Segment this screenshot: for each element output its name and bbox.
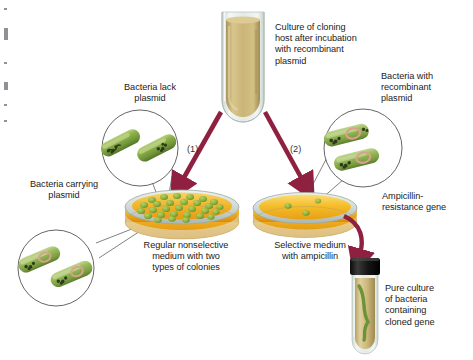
label-step-two: (2): [290, 144, 301, 154]
label-nonselective-plate: Regular nonselective medium with two typ…: [125, 240, 247, 274]
label-step-one: (1): [187, 144, 198, 154]
label-selective-plate: Selective medium with ampicillin: [258, 240, 362, 262]
petri-dish-icon-selective: [253, 193, 357, 238]
label-bacteria-carrying-plasmid: Bacteria carrying plasmid: [8, 179, 120, 201]
petri-dish-icon-nonselective: [125, 190, 239, 239]
capped-test-tube-icon: [350, 258, 380, 354]
test-tube-icon: [222, 12, 264, 122]
label-ampicillin-resistance-gene: Ampicillin- resistance gene: [382, 191, 473, 213]
magnified-circle-icon-carrying-plasmid: [16, 230, 95, 306]
magnified-circle-icon-lack-plasmid: [98, 110, 178, 186]
label-bacteria-lack-plasmid: Bacteria lack plasmid: [96, 82, 204, 104]
label-culture-tube: Culture of cloning host after incubation…: [275, 22, 385, 67]
figure-canvas: Culture of cloning host after incubation…: [0, 0, 473, 360]
label-pure-culture: Pure culture of bacteria containing clon…: [385, 283, 471, 328]
magnified-circle-icon-recombinant-plasmid: [322, 109, 402, 187]
label-bacteria-with-recombinant-plasmid: Bacteria with recombinant plasmid: [381, 71, 473, 105]
